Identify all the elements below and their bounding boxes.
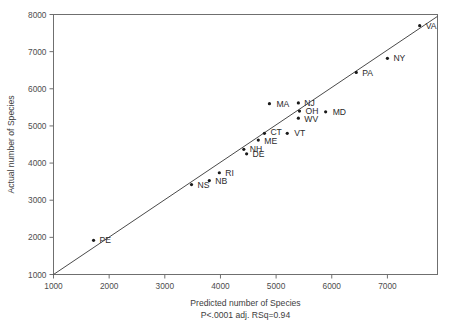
scatter-plot-figure: 1000200030004000500060007000800010002000… bbox=[0, 0, 451, 324]
data-point bbox=[298, 109, 301, 112]
y-axis-tick-label: 8000 bbox=[28, 10, 47, 20]
y-axis-tick-label: 6000 bbox=[28, 84, 47, 94]
data-point bbox=[190, 183, 193, 186]
x-axis-tick-label: 2000 bbox=[100, 281, 119, 291]
data-point bbox=[208, 179, 211, 182]
x-axis-tick-label: 1000 bbox=[44, 281, 63, 291]
data-point bbox=[263, 132, 266, 135]
y-axis-tick-label: 5000 bbox=[28, 121, 47, 131]
data-point bbox=[92, 239, 95, 242]
data-point-label: CT bbox=[270, 127, 282, 137]
data-point-label: MD bbox=[333, 107, 346, 117]
data-point-label: NY bbox=[393, 53, 405, 63]
y-axis-tick-label: 2000 bbox=[28, 232, 47, 242]
y-axis-tick-label: 1000 bbox=[28, 270, 47, 280]
data-point-label: PA bbox=[362, 68, 373, 78]
data-point-label: ME bbox=[264, 136, 277, 146]
data-point bbox=[324, 110, 327, 113]
x-axis-tick-label: 4000 bbox=[211, 281, 230, 291]
x-axis-tick-label: 6000 bbox=[323, 281, 342, 291]
data-point-label: VT bbox=[294, 128, 306, 138]
data-point-label: VA bbox=[426, 21, 437, 31]
x-axis-tick-label: 5000 bbox=[267, 281, 286, 291]
x-axis-tick-label: 7000 bbox=[378, 281, 397, 291]
chart-canvas: 1000200030004000500060007000800010002000… bbox=[0, 0, 451, 324]
data-point bbox=[245, 152, 248, 155]
data-point bbox=[386, 57, 389, 60]
data-point bbox=[297, 101, 300, 104]
data-point bbox=[286, 132, 289, 135]
y-axis-tick-label: 7000 bbox=[28, 47, 47, 57]
stats-caption: P<.0001 adj. RSq=0.94 bbox=[201, 310, 291, 320]
y-axis-tick-label: 4000 bbox=[28, 158, 47, 168]
y-axis-tick-label: 3000 bbox=[28, 195, 47, 205]
data-point-label: DE bbox=[253, 149, 265, 159]
data-point bbox=[242, 148, 245, 151]
data-point bbox=[418, 24, 421, 27]
y-axis-title: Actual number of Species bbox=[6, 96, 16, 194]
data-point bbox=[297, 117, 300, 120]
data-point bbox=[355, 71, 358, 74]
data-point-label: MA bbox=[276, 99, 289, 109]
data-point bbox=[218, 171, 221, 174]
data-point-label: WV bbox=[304, 114, 318, 124]
data-point-label: RI bbox=[225, 168, 234, 178]
x-axis-tick-label: 3000 bbox=[156, 281, 175, 291]
x-axis-title: Predicted number of Species bbox=[190, 298, 300, 308]
data-point bbox=[268, 102, 271, 105]
regression-fit-line bbox=[54, 16, 438, 274]
data-point-label: PE bbox=[100, 235, 112, 245]
data-point bbox=[257, 138, 260, 141]
